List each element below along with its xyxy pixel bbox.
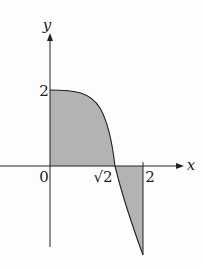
shaded-region-negative: [115, 166, 143, 255]
y-axis-arrow-icon: [47, 33, 53, 41]
graph-canvas: y x 2 0 √2 2: [0, 0, 203, 268]
x-axis-label: x: [187, 156, 196, 174]
x-tick-2: 2: [145, 168, 155, 186]
x-tick-sqrt2: √2: [93, 168, 112, 186]
y-tick-2: 2: [39, 82, 49, 100]
origin-label: 0: [39, 168, 49, 186]
y-axis-label: y: [42, 16, 52, 34]
x-axis-arrow-icon: [176, 163, 184, 169]
function-graph: y x 2 0 √2 2: [0, 0, 203, 268]
shaded-region-positive: [50, 90, 115, 166]
